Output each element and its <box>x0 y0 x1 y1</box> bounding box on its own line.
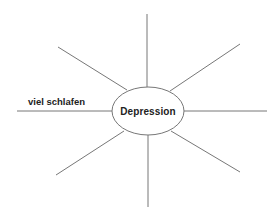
branch-line-upper-left <box>58 47 127 90</box>
center-node-label: Depression <box>112 87 184 135</box>
branch-label-left: viel schlafen <box>28 96 85 107</box>
branch-line-upper-right <box>170 44 240 91</box>
branch-line-lower-right <box>171 131 240 172</box>
branch-line-lower-left <box>56 131 124 175</box>
